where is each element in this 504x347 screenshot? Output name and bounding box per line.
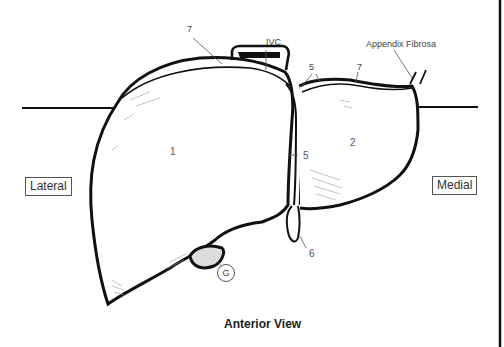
- label-left-lobe-2: 2: [350, 138, 356, 148]
- leader-appendix: [394, 50, 412, 78]
- leader-6: [300, 236, 306, 248]
- gallbladder-shape: [190, 246, 224, 268]
- round-ligament-shape: [287, 206, 300, 241]
- label-ligament-5-middle: 5: [303, 151, 309, 161]
- orientation-medial-label: Medial: [432, 176, 477, 195]
- ivc-lumen: [238, 52, 280, 58]
- diagram-title: Anterior View: [224, 317, 301, 331]
- label-ligament-5-top: 5: [309, 63, 314, 72]
- liver-illustration: [0, 0, 504, 347]
- orientation-lateral-label: Lateral: [25, 177, 72, 196]
- label-right-lobe-1: 1: [170, 147, 176, 157]
- right-lobe-outline: [91, 58, 293, 304]
- label-appendix-fibrosa: Appendix Fibrosa: [366, 40, 436, 49]
- left-lobe-outline: [300, 79, 418, 209]
- label-ivc: IVC: [266, 38, 281, 47]
- appendix-fibrosa-shape: [410, 70, 426, 84]
- label-ligament-7-right: 7: [357, 63, 362, 72]
- label-round-ligament-6: 6: [309, 249, 315, 259]
- label-ligament-7-left: 7: [187, 25, 192, 34]
- liver-anterior-diagram: 7 IVC 5 7 Appendix Fibrosa 1 2 5 6 G Lat…: [0, 0, 504, 347]
- label-gallbladder-g: G: [217, 264, 235, 282]
